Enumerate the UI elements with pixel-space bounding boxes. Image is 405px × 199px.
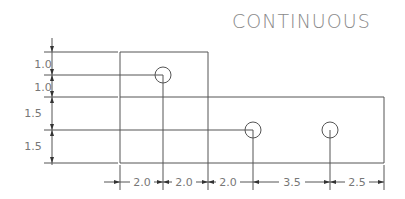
- cad-drawing: 1.0 1.0 1.5 1.5 2.0 2.0 2.0 3.5 2.5: [0, 0, 405, 199]
- dim-v-1: 1.0: [34, 58, 52, 71]
- dim-v-2: 1.0: [34, 81, 52, 94]
- dim-h-1: 2.0: [133, 176, 151, 189]
- dim-h-4: 3.5: [283, 176, 301, 189]
- dim-h-5: 2.5: [348, 176, 366, 189]
- top-part-outline: [120, 52, 208, 163]
- dim-v-4: 1.5: [24, 140, 42, 153]
- dim-h-2: 2.0: [175, 176, 193, 189]
- dim-v-3: 1.5: [24, 107, 42, 120]
- dim-h-3: 2.0: [219, 176, 237, 189]
